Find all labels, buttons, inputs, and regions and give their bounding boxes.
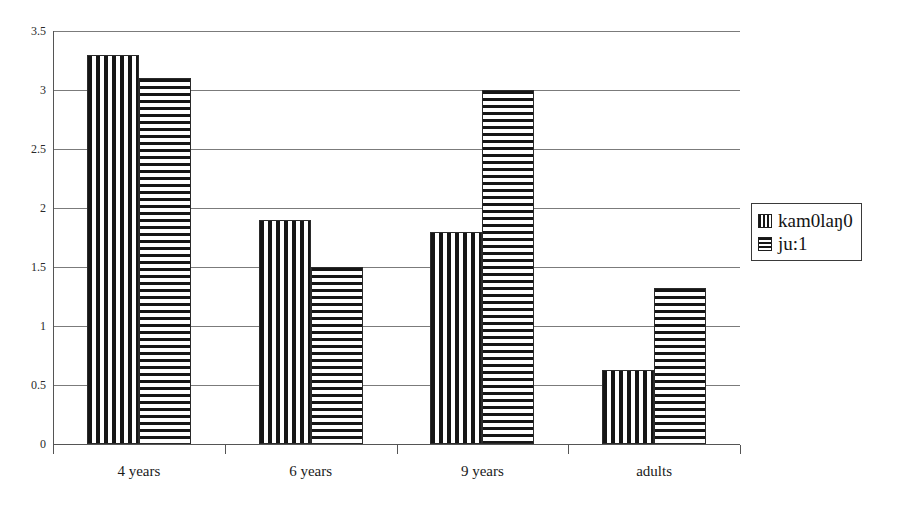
bar [259, 220, 311, 444]
y-axis-tick-label: 2.5 [0, 143, 46, 155]
x-axis-tick [225, 445, 226, 454]
bar [482, 90, 534, 444]
y-axis-tick-label: 1.5 [0, 261, 46, 273]
x-axis-category-label: 6 years [225, 462, 397, 480]
x-axis-category-label: adults [568, 462, 740, 480]
x-axis-tick [53, 445, 54, 454]
bar [139, 78, 191, 444]
bar [602, 370, 654, 444]
bar [654, 288, 706, 444]
bar [430, 232, 482, 444]
bar [87, 55, 139, 444]
x-axis-category-label: 4 years [53, 462, 225, 480]
x-axis-tick [740, 445, 741, 454]
x-axis-tick [397, 445, 398, 454]
plot-area [53, 31, 740, 444]
y-axis-tick-label: 2 [0, 202, 46, 214]
bar [311, 267, 363, 444]
y-axis-tick-label: 0 [0, 438, 46, 450]
legend-item-series-1: kam0laŋ0 [758, 209, 853, 232]
x-axis-category-label: 9 years [397, 462, 569, 480]
horizontal-stripe-swatch-icon [758, 237, 772, 251]
y-axis-tick-label: 3 [0, 84, 46, 96]
y-axis-tick-label: 0.5 [0, 379, 46, 391]
legend-item-label: ju:1 [778, 233, 808, 254]
y-axis-tick-label: 1 [0, 320, 46, 332]
bar-chart: 00.511.522.533.5 4 years6 years9 yearsad… [0, 0, 900, 508]
y-axis-tick-label: 3.5 [0, 25, 46, 37]
x-axis-tick [568, 445, 569, 454]
legend-item-label: kam0laŋ0 [778, 210, 853, 231]
legend-item-series-2: ju:1 [758, 232, 853, 255]
vertical-stripe-swatch-icon [758, 214, 772, 228]
chart-legend: kam0laŋ0 ju:1 [751, 203, 862, 261]
